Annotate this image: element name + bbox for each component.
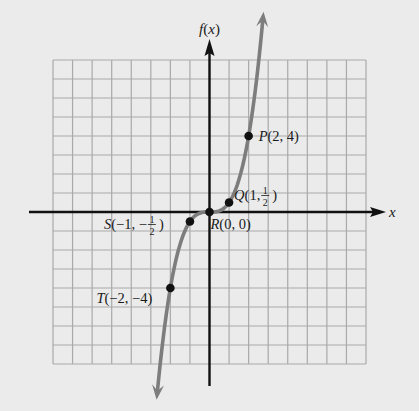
point-label-p: P(2, 4) <box>258 128 299 145</box>
labels-layer: f(x) x P(2, 4)Q(1, 12)R(0, 0)S(−1, −12)T… <box>96 21 396 307</box>
fraction-denominator: 2 <box>149 226 154 237</box>
point-p <box>244 132 253 141</box>
point-label-r: R(0, 0) <box>210 216 251 233</box>
point-s <box>186 217 195 226</box>
fraction-denominator: 2 <box>263 197 268 208</box>
x-axis-label: x <box>388 204 396 220</box>
function-graph: f(x) x P(2, 4)Q(1, 12)R(0, 0)S(−1, −12)T… <box>0 0 419 411</box>
y-axis-label: f(x) <box>199 21 220 38</box>
point-r <box>205 208 214 217</box>
point-t <box>166 284 175 293</box>
label-close-paren: ) <box>159 216 164 233</box>
point-q <box>225 198 234 207</box>
point-label-s: S(−1, − <box>104 216 147 233</box>
label-close-paren: ) <box>272 187 277 204</box>
point-label-t: T(−2, −4) <box>96 290 152 307</box>
point-label-q: Q(1, <box>234 187 260 204</box>
fraction-numerator: 1 <box>149 214 154 225</box>
fraction-numerator: 1 <box>263 185 268 196</box>
